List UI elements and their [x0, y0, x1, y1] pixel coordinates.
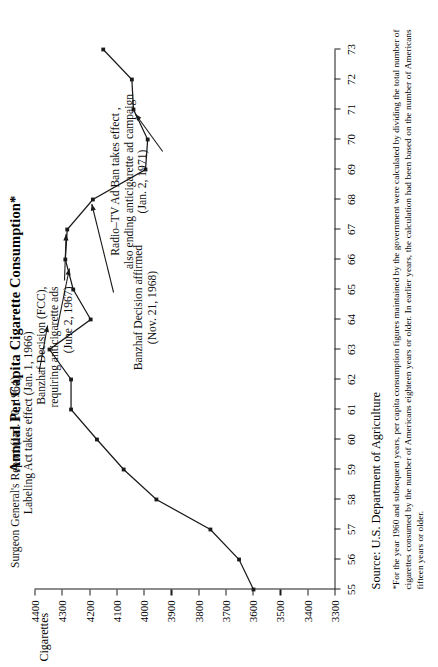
y-axis-tick-label: 4400 [28, 600, 40, 622]
x-axis-tick-label: 61 [344, 404, 356, 415]
y-axis-tick [307, 589, 308, 595]
x-axis-tick-label: 64 [344, 314, 356, 325]
x-axis-tick-label: 62 [344, 374, 356, 385]
x-axis-tick-label: 68 [344, 194, 356, 205]
x-axis-tick-label: 71 [344, 104, 356, 115]
x-axis-tick-label: 67 [344, 224, 356, 235]
x-axis-tick-label: 60 [344, 434, 356, 445]
x-axis-tick-label: 69 [344, 164, 356, 175]
x-axis-tick-label: 57 [344, 524, 356, 535]
footnote-text: *For the year 1960 and subsequent years,… [390, 29, 426, 589]
x-axis-tick-label: 73 [344, 44, 356, 55]
y-axis-tick [198, 589, 199, 595]
y-axis-tick-label: 3600 [246, 600, 258, 622]
y-axis-tick-label: 4000 [137, 600, 149, 622]
y-axis-tick [334, 589, 335, 595]
y-axis-tick [170, 589, 171, 595]
x-axis-tick-label: 66 [344, 254, 356, 265]
y-axis-tick [61, 589, 62, 595]
x-axis-tick-label: 55 [344, 584, 356, 595]
y-axis-tick-label: 3300 [328, 600, 340, 622]
y-axis-tick [89, 589, 90, 595]
x-axis-tick-label: 56 [344, 554, 356, 565]
source-note: Source: U.S. Department of Agriculture [368, 391, 383, 589]
x-axis-tick-label: 72 [344, 74, 356, 85]
y-axis-tick-label: 4200 [83, 600, 95, 622]
y-axis-tick [116, 589, 117, 595]
y-axis-tick-label: 3400 [301, 600, 313, 622]
x-axis-tick-label: 65 [344, 284, 356, 295]
y-axis-tick [279, 589, 280, 595]
plot-area: 3300340035003600370038003900400041004200… [34, 49, 334, 589]
y-axis-tick-label: 3700 [219, 600, 231, 622]
x-axis-tick-label: 59 [344, 464, 356, 475]
annotation-surgeon-general: Surgeon General's Report (Jan. 10, 1964) [8, 376, 22, 568]
y-axis-tick-label: 3800 [192, 600, 204, 622]
annotation-radio-tv-ad-ban: Radio–TV Ad Ban takes effect , also endi… [108, 71, 149, 291]
annotation-banzhaf-decision: Banzhaf Decision (FCC), requiring antici… [34, 286, 75, 407]
y-axis-tick-label: 4100 [110, 600, 122, 622]
figure-canvas: Annual Per Capita Cigarette Consumption*… [0, 0, 438, 667]
annotation-leader-lines [34, 49, 334, 589]
x-axis-tick-label: 58 [344, 494, 356, 505]
rotated-figure-wrapper: Annual Per Capita Cigarette Consumption*… [0, 0, 438, 667]
y-axis-tick [225, 589, 226, 595]
x-axis-tick-label: 70 [344, 134, 356, 145]
y-axis-tick-label: 4300 [55, 600, 67, 622]
annotation-labeling-act: Labeling Act takes effect (Jan. 1, 1966) [21, 331, 35, 514]
y-axis-tick-label: 3500 [273, 600, 285, 622]
y-axis-tick [34, 589, 35, 595]
y-axis-tick-label: 3900 [164, 600, 176, 622]
x-axis-tick-label: 63 [344, 344, 356, 355]
y-axis-tick [143, 589, 144, 595]
